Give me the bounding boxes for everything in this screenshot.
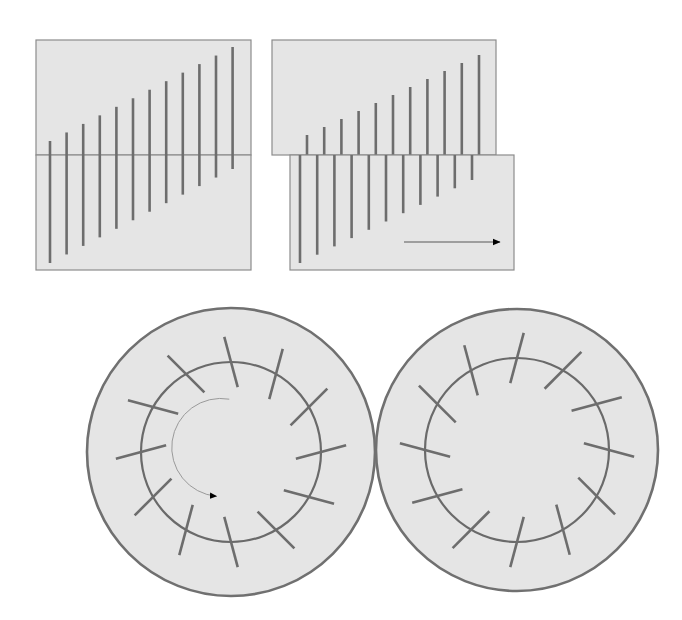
upper-rect bbox=[36, 40, 251, 155]
panel-bottom-right-circles bbox=[376, 309, 658, 591]
panel-top-right-rectangles bbox=[272, 40, 514, 270]
lower-rect bbox=[36, 155, 251, 270]
panel-top-left-rectangles bbox=[36, 40, 251, 270]
figure-canvas bbox=[0, 0, 682, 620]
panel-bottom-left-circles bbox=[87, 308, 375, 596]
outer-circle bbox=[87, 308, 375, 596]
outer-circle bbox=[376, 309, 658, 591]
figure-root bbox=[0, 0, 682, 620]
